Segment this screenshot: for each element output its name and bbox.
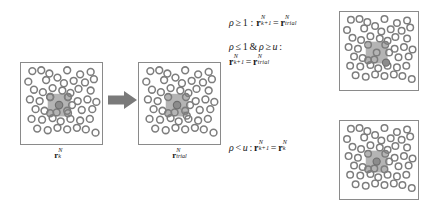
eq2-colon: :: [278, 41, 284, 52]
transition-arrow: [108, 90, 138, 110]
simulation-box-trial: [138, 62, 221, 145]
selected-particle-rejected: [373, 158, 380, 165]
equation-accept-probabilistic-result: rk+1Nk+1=rtrialNtrial: [229, 56, 269, 67]
equation-accept-probabilistic-condition: ρ≤1&ρ≥u:: [229, 41, 284, 52]
simulation-box-accepted: [339, 11, 419, 91]
eq1-lhs-sub: k+1: [261, 20, 272, 26]
simulation-box-initial: [20, 62, 103, 145]
eq3-rhs-sub: k: [283, 145, 286, 151]
equation-accept-certain: ρ≥1 : rk+1Nk+1=rtrialNtrial: [229, 17, 297, 28]
figure-canvas: rtrialNk: [0, 0, 431, 209]
label-initial-configuration: rtrialNk: [20, 150, 103, 160]
eq2-relation-1: ≤: [234, 41, 243, 52]
selected-particle-trial: [173, 101, 180, 108]
selected-particle-accepted: [382, 59, 389, 66]
trial-box-contents: [139, 63, 220, 144]
eq3-equals: =: [269, 142, 278, 153]
eq3-lhs-sub: k+1: [259, 145, 270, 151]
simulation-box-rejected: [339, 120, 419, 200]
transition-arrow-glyph: [108, 90, 138, 110]
selected-particle-initial: [55, 101, 62, 108]
eq2-rhs-sub: trial: [258, 59, 270, 65]
rejected-box-contents: [340, 121, 418, 199]
label-initial-sub: k: [58, 153, 61, 159]
accepted-box-contents: [340, 12, 418, 90]
label-trial-configuration: rtrialNtrial: [138, 150, 221, 160]
eq2-relation-2: ≥: [264, 41, 273, 52]
eq1-rhs-sub: trial: [285, 20, 297, 26]
eq1-relation: ≥: [234, 17, 243, 28]
initial-box-contents: [21, 63, 102, 144]
eq2-equals: =: [244, 56, 253, 67]
eq3-relation: <: [234, 142, 243, 153]
equation-reject: ρ<u:rk+1Nk+1=rkNk: [229, 142, 286, 153]
label-trial-sub: trial: [176, 153, 187, 159]
eq2-lhs-sub: k+1: [234, 59, 245, 65]
eq2-ampersand: &: [248, 41, 259, 52]
